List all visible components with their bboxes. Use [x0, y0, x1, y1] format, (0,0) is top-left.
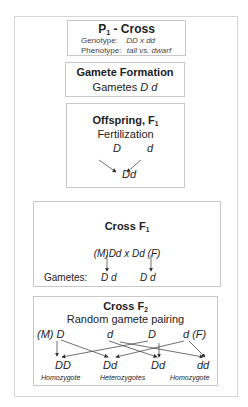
- arrows-overlay: [0, 0, 248, 407]
- arrow-D-to-Dd: [99, 160, 116, 172]
- arrow-d-to-Dd: [127, 160, 141, 172]
- arrow-md-dd: [120, 342, 203, 357]
- arrow-mD-Dd: [61, 340, 108, 357]
- arrow-fD-DD: [62, 341, 148, 357]
